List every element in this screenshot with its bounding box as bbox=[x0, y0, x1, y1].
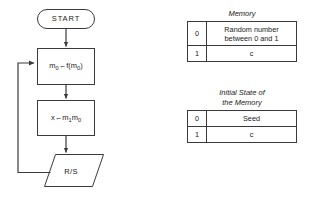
initial-state-table-caption: Initial State of the Memory bbox=[187, 88, 297, 108]
initial-state-row-1-index: 1 bbox=[188, 127, 207, 143]
process-box-2-label: x←m1m0 bbox=[37, 114, 95, 122]
process2-rhs-2-subscript: 0 bbox=[78, 117, 81, 123]
memory-row-0-index: 0 bbox=[188, 22, 207, 46]
process2-rhs-1-subscript: 1 bbox=[69, 117, 72, 123]
table-row: 1 c bbox=[188, 46, 297, 62]
initial-state-caption-line-2: the Memory bbox=[187, 98, 297, 108]
initial-state-caption-line-1: Initial State of bbox=[187, 88, 297, 98]
initial-state-row-0-index: 0 bbox=[188, 111, 207, 127]
io-parallelogram-label: R/S bbox=[42, 168, 100, 176]
process1-lhs: m bbox=[49, 61, 55, 70]
process2-rhs-1: m bbox=[62, 113, 68, 122]
flowchart-diagram-page: START m0←f(m0) x←m1m0 R/S Memory 0 Rando… bbox=[0, 0, 314, 206]
table-row: 0 Seed bbox=[188, 111, 297, 127]
initial-state-table: 0 Seed 1 c bbox=[187, 110, 297, 143]
initial-state-row-0-value: Seed bbox=[207, 111, 297, 127]
memory-row-0-value-line-1: Random number bbox=[208, 25, 295, 34]
start-terminator-label: START bbox=[37, 15, 95, 23]
memory-row-0-value-line-2: between 0 and 1 bbox=[208, 34, 295, 43]
table-row: 0 Random number between 0 and 1 bbox=[188, 22, 297, 46]
flowchart-region: START m0←f(m0) x←m1m0 R/S bbox=[0, 0, 160, 206]
memory-table: 0 Random number between 0 and 1 1 c bbox=[187, 21, 297, 62]
process1-rhs-suffix: ) bbox=[80, 61, 83, 70]
process1-rhs-prefix: f(m bbox=[66, 61, 77, 70]
memory-table-block: Memory 0 Random number between 0 and 1 1… bbox=[187, 9, 297, 62]
initial-state-table-block: Initial State of the Memory 0 Seed 1 c bbox=[187, 88, 297, 143]
process1-lhs-subscript: 0 bbox=[56, 65, 59, 71]
process1-rhs-subscript: 0 bbox=[77, 65, 80, 71]
process-box-1-label: m0←f(m0) bbox=[37, 62, 95, 70]
memory-row-1-index: 1 bbox=[188, 46, 207, 62]
memory-table-caption: Memory bbox=[187, 9, 297, 19]
initial-state-row-1-value: c bbox=[207, 127, 297, 143]
table-row: 1 c bbox=[188, 127, 297, 143]
memory-row-1-value: c bbox=[207, 46, 297, 62]
process2-rhs-2: m bbox=[72, 113, 78, 122]
memory-row-0-value: Random number between 0 and 1 bbox=[207, 22, 297, 46]
